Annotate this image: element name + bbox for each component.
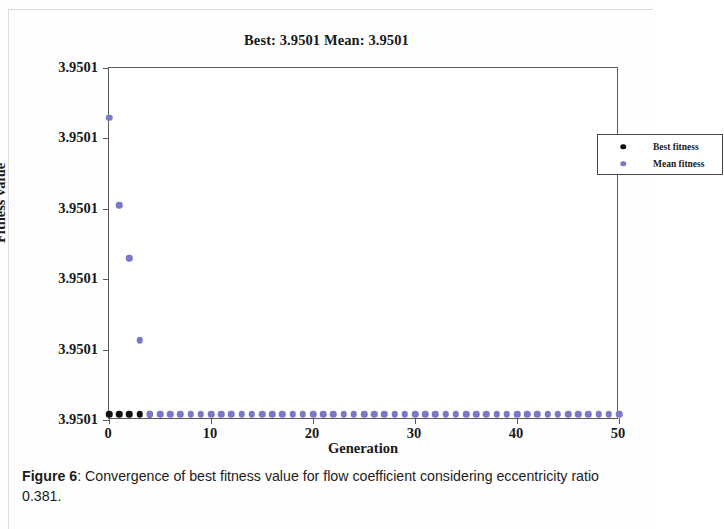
page-border-top — [8, 9, 653, 10]
data-point-mean-fitness — [381, 411, 388, 418]
data-point-mean-fitness — [208, 411, 215, 418]
x-tick-label: 30 — [384, 425, 444, 442]
data-point-mean-fitness — [228, 411, 235, 418]
x-axis-title: Generation — [108, 440, 618, 457]
data-point-mean-fitness — [616, 411, 623, 418]
x-tick-mark — [517, 418, 518, 424]
x-tick-mark — [109, 418, 110, 424]
data-point-best-fitness — [116, 411, 123, 418]
data-point-mean-fitness — [300, 411, 307, 418]
x-tick-label: 20 — [282, 425, 342, 442]
data-point-mean-fitness — [432, 411, 439, 418]
data-point-mean-fitness — [402, 411, 409, 418]
x-tick-mark — [313, 418, 314, 424]
figure-caption-separator: : — [77, 468, 85, 484]
x-tick-label: 0 — [78, 425, 138, 442]
y-tick-mark — [103, 209, 109, 210]
figure-caption-text: Convergence of best fitness value for fl… — [22, 468, 599, 504]
data-point-mean-fitness — [279, 411, 286, 418]
data-point-best-fitness — [126, 411, 133, 418]
data-point-mean-fitness — [238, 411, 245, 418]
y-tick-label: 3.9501 — [26, 59, 98, 76]
x-tick-mark — [415, 418, 416, 424]
x-tick-label: 50 — [588, 425, 648, 442]
data-point-mean-fitness — [412, 411, 419, 418]
data-point-mean-fitness — [218, 411, 225, 418]
data-point-mean-fitness — [167, 411, 174, 418]
legend-marker-mean-fitness-icon — [620, 161, 626, 167]
legend-label-best-fitness: Best fitness — [653, 142, 699, 152]
y-tick-mark — [103, 350, 109, 351]
y-tick-mark — [103, 68, 109, 69]
data-point-mean-fitness — [473, 411, 480, 418]
x-tick-mark — [211, 418, 212, 424]
y-tick-mark — [103, 138, 109, 139]
y-tick-label: 3.9501 — [26, 129, 98, 146]
data-point-mean-fitness — [320, 411, 327, 418]
data-point-mean-fitness — [524, 411, 531, 418]
legend-marker-best-fitness-icon — [620, 144, 626, 150]
y-tick-label: 3.9501 — [26, 270, 98, 287]
chart-title: Best: 3.9501 Mean: 3.9501 — [0, 32, 653, 49]
plot-area: Best fitness Mean fitness — [108, 67, 618, 419]
data-point-mean-fitness — [259, 411, 266, 418]
legend-label-mean-fitness: Mean fitness — [653, 159, 704, 169]
data-point-mean-fitness — [340, 411, 347, 418]
data-point-mean-fitness — [116, 202, 123, 209]
data-point-mean-fitness — [351, 411, 358, 418]
data-point-mean-fitness — [575, 411, 582, 418]
data-point-best-fitness — [136, 411, 143, 418]
data-point-mean-fitness — [106, 115, 113, 122]
data-point-mean-fitness — [136, 337, 143, 344]
data-point-mean-fitness — [371, 411, 378, 418]
y-axis-title: Fitness value — [0, 163, 9, 243]
data-point-mean-fitness — [453, 411, 460, 418]
data-point-mean-fitness — [463, 411, 470, 418]
x-tick-mark — [619, 418, 620, 424]
data-point-mean-fitness — [361, 411, 368, 418]
data-point-mean-fitness — [483, 411, 490, 418]
figure-panel: Best: 3.9501 Mean: 3.9501 Fitness value … — [0, 12, 653, 452]
data-point-mean-fitness — [493, 411, 500, 418]
data-point-mean-fitness — [249, 411, 256, 418]
data-point-mean-fitness — [126, 255, 133, 262]
data-point-mean-fitness — [289, 411, 296, 418]
data-point-best-fitness — [106, 411, 113, 418]
data-point-mean-fitness — [198, 411, 205, 418]
data-point-mean-fitness — [534, 411, 541, 418]
legend-item-best-fitness: Best fitness — [598, 138, 724, 155]
data-point-mean-fitness — [177, 411, 184, 418]
x-tick-label: 40 — [486, 425, 546, 442]
data-point-mean-fitness — [442, 411, 449, 418]
y-tick-mark — [103, 279, 109, 280]
data-point-mean-fitness — [187, 411, 194, 418]
data-point-mean-fitness — [422, 411, 429, 418]
legend: Best fitness Mean fitness — [597, 134, 723, 175]
data-point-mean-fitness — [544, 411, 551, 418]
y-tick-label: 3.9501 — [26, 199, 98, 216]
data-point-mean-fitness — [606, 411, 613, 418]
data-point-mean-fitness — [310, 411, 317, 418]
data-point-mean-fitness — [514, 411, 521, 418]
data-point-mean-fitness — [269, 411, 276, 418]
data-point-mean-fitness — [330, 411, 337, 418]
data-point-mean-fitness — [157, 411, 164, 418]
y-tick-label: 3.9501 — [26, 340, 98, 357]
data-point-mean-fitness — [555, 411, 562, 418]
data-point-mean-fitness — [504, 411, 511, 418]
data-point-mean-fitness — [565, 411, 572, 418]
figure-caption-label: Figure 6 — [22, 468, 77, 484]
data-point-mean-fitness — [391, 411, 398, 418]
figure-caption: Figure 6: Convergence of best fitness va… — [22, 466, 622, 506]
data-point-mean-fitness — [585, 411, 592, 418]
data-point-mean-fitness — [595, 411, 602, 418]
legend-item-mean-fitness: Mean fitness — [598, 155, 724, 172]
x-tick-label: 10 — [180, 425, 240, 442]
data-point-mean-fitness — [147, 411, 154, 418]
